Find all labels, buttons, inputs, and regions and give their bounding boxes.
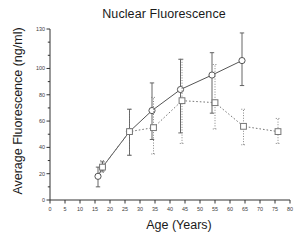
series-line <box>98 61 242 177</box>
x-tick-label: 45 <box>182 206 188 212</box>
data-point-circle <box>177 86 183 92</box>
x-tick-label: 65 <box>242 206 248 212</box>
data-point-square <box>151 125 157 131</box>
x-tick-label: 60 <box>227 206 233 212</box>
x-tick-label: 30 <box>137 206 143 212</box>
y-tick-label: 100 <box>36 65 45 71</box>
data-point-square <box>127 129 133 135</box>
plot-area: 0510152025303540455055606570758002040608… <box>0 0 302 242</box>
x-tick-label: 40 <box>167 206 173 212</box>
x-tick-label: 75 <box>272 206 278 212</box>
y-tick-label: 40 <box>39 144 45 150</box>
x-tick-label: 35 <box>152 206 158 212</box>
y-tick-label: 60 <box>39 118 45 124</box>
x-tick-label: 80 <box>287 206 293 212</box>
data-point-circle <box>209 72 215 78</box>
y-tick-label: 20 <box>39 171 45 177</box>
data-point-square <box>212 100 218 106</box>
series-open-circle-solid-line <box>95 33 245 187</box>
x-tick-label: 5 <box>64 206 67 212</box>
y-tick-label: 130 <box>36 26 45 32</box>
data-point-circle <box>149 107 155 113</box>
data-point-square <box>179 98 185 104</box>
x-tick-label: 15 <box>92 206 98 212</box>
y-tick-label: 80 <box>39 92 45 98</box>
x-tick-label: 55 <box>212 206 218 212</box>
x-tick-label: 10 <box>77 206 83 212</box>
x-tick-label: 70 <box>257 206 263 212</box>
data-point-circle <box>95 173 101 179</box>
x-tick-label: 20 <box>107 206 113 212</box>
chart-figure: Nuclear Fluorescence Average Fluorescenc… <box>0 0 302 242</box>
x-tick-label: 0 <box>49 206 52 212</box>
x-tick-label: 50 <box>197 206 203 212</box>
data-point-circle <box>239 57 245 63</box>
data-point-square <box>100 164 106 170</box>
data-point-square <box>241 123 247 129</box>
x-tick-label: 25 <box>122 206 128 212</box>
data-point-square <box>275 129 281 135</box>
series-open-square-dotted-line <box>100 59 281 172</box>
y-tick-label: 0 <box>42 197 45 203</box>
